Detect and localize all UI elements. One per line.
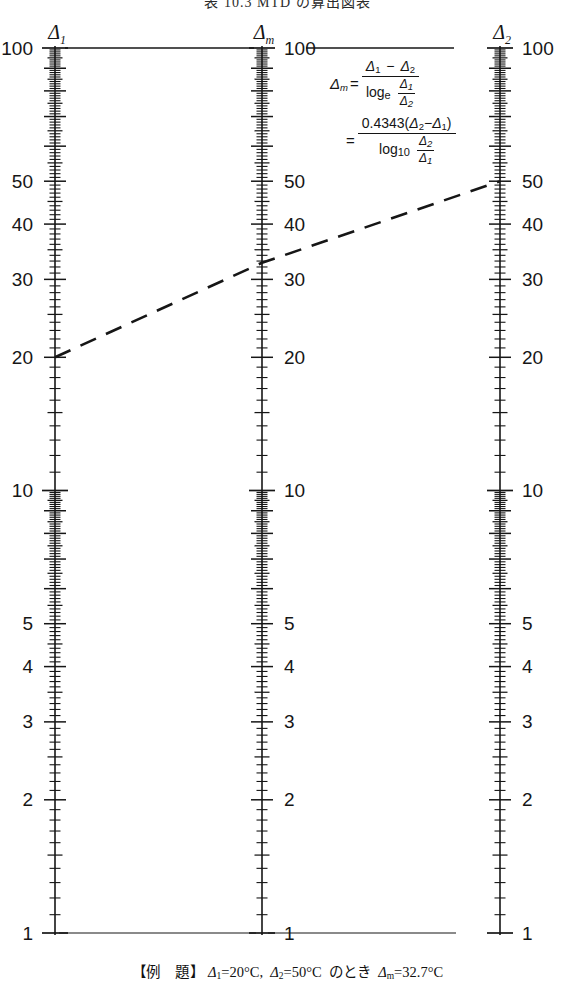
- axis-label-delta2-10: 10: [522, 480, 543, 501]
- axis-label-deltam-2: 2: [284, 789, 295, 810]
- caption-label: 【例 題】: [132, 964, 205, 980]
- axis-label-delta2-40: 40: [522, 214, 543, 235]
- axis-label-deltam-50: 50: [284, 171, 305, 192]
- fraction-2-denominator: log10 Δ2 Δ1: [375, 134, 438, 166]
- axis-label-delta2-50: 50: [522, 171, 543, 192]
- equals-sign-1: =: [350, 75, 359, 92]
- axis-label-delta1-40: 40: [12, 214, 33, 235]
- fraction-1-denominator: loge Δ1 Δ2: [362, 77, 419, 109]
- axis-label-delta1-2: 2: [22, 789, 33, 810]
- axis-delta1: [42, 46, 68, 935]
- axis-label-delta1-100: 100: [1, 38, 33, 59]
- axis-label-deltam-20: 20: [284, 347, 305, 368]
- axis-headers: Δ1ΔmΔ2: [47, 21, 511, 47]
- formula-block: Δm = Δ1 − Δ2 loge Δ1 Δ2 = 0.4343(Δ2−Δ1): [330, 58, 515, 172]
- axis-label-deltam-3: 3: [284, 711, 295, 732]
- axis-label-delta1-20: 20: [12, 347, 33, 368]
- axis-label-delta2-1: 1: [522, 923, 533, 944]
- axis-group: [42, 46, 513, 935]
- axis-deltam: [249, 46, 275, 935]
- axis-label-delta2-4: 4: [522, 656, 533, 677]
- axis-label-delta1-3: 3: [22, 711, 33, 732]
- axis-label-delta1-10: 10: [12, 480, 33, 501]
- axis-tick-labels: 1005040302010543211005040302010543211005…: [1, 38, 553, 944]
- axis-label-deltam-30: 30: [284, 269, 305, 290]
- fraction-1: Δ1 − Δ2 loge Δ1 Δ2: [362, 58, 419, 109]
- fraction-2: 0.4343(Δ2−Δ1) log10 Δ2 Δ1: [358, 115, 456, 166]
- axis-label-delta1-30: 30: [12, 269, 33, 290]
- example-alignment-line: [55, 181, 500, 357]
- axis-label-deltam-1: 1: [284, 923, 295, 944]
- equals-sign-2: =: [346, 132, 355, 149]
- formula-line-1: Δm = Δ1 − Δ2 loge Δ1 Δ2: [330, 58, 515, 109]
- axis-delta2: [487, 46, 513, 935]
- axis-label-delta2-5: 5: [522, 613, 533, 634]
- axis-label-deltam-10: 10: [284, 480, 305, 501]
- axis-header-deltam: Δm: [253, 21, 275, 47]
- formula-lhs: Δm: [330, 75, 348, 93]
- axis-label-deltam-100: 100: [284, 38, 316, 59]
- axis-label-delta1-4: 4: [22, 656, 33, 677]
- fraction-2-numerator: 0.4343(Δ2−Δ1): [358, 115, 456, 133]
- axis-label-deltam-5: 5: [284, 613, 295, 634]
- formula-line-2: = 0.4343(Δ2−Δ1) log10 Δ2 Δ1: [344, 115, 515, 166]
- caption-text: Δ1=20°C, Δ2=50°C のとき Δm=32.7°C: [208, 964, 443, 980]
- axis-label-delta2-30: 30: [522, 269, 543, 290]
- axis-label-delta1-50: 50: [12, 171, 33, 192]
- example-caption: 【例 題】 Δ1=20°C, Δ2=50°C のとき Δm=32.7°C: [0, 960, 575, 981]
- axis-label-delta1-1: 1: [22, 923, 33, 944]
- alignment-line: [55, 181, 500, 357]
- axis-header-delta2: Δ2: [492, 21, 511, 47]
- axis-label-delta2-2: 2: [522, 789, 533, 810]
- axis-label-delta1-5: 5: [22, 613, 33, 634]
- axis-header-delta1: Δ1: [47, 21, 66, 47]
- axis-label-deltam-40: 40: [284, 214, 305, 235]
- axis-label-delta2-100: 100: [522, 38, 554, 59]
- fraction-1-numerator: Δ1 − Δ2: [362, 58, 419, 76]
- axis-label-delta2-3: 3: [522, 711, 533, 732]
- axis-label-deltam-4: 4: [284, 656, 295, 677]
- axis-label-delta2-20: 20: [522, 347, 543, 368]
